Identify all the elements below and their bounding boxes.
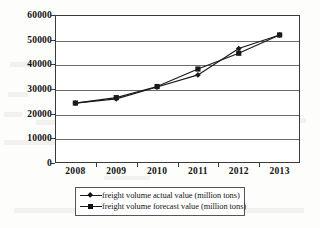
square-marker: [154, 84, 159, 89]
square-marker: [236, 51, 241, 56]
y-axis-tick-mark: [51, 64, 55, 65]
diamond-marker-icon: [80, 190, 102, 201]
chart-container: 0100002000030000400005000060000 20082009…: [0, 0, 320, 228]
diamond-marker: [236, 46, 242, 52]
x-axis-tick-label: 2012: [229, 166, 249, 176]
square-marker: [73, 100, 78, 105]
square-marker: [277, 32, 282, 37]
x-axis-tick-label: 2013: [269, 166, 289, 176]
y-axis-tick-mark: [51, 163, 55, 164]
chart-legend: freight volume actual value (million ton…: [75, 187, 245, 216]
y-axis-labels: 0100002000030000400005000060000: [0, 0, 52, 228]
legend-item-forecast: freight volume forecast value (million t…: [80, 201, 240, 212]
y-axis-tick-label: 10000: [2, 133, 52, 143]
legend-item-actual: freight volume actual value (million ton…: [80, 190, 240, 201]
square-marker: [195, 66, 200, 71]
y-axis-tick-label: 0: [2, 158, 52, 168]
x-axis-tick-mark: [96, 163, 97, 167]
y-axis-tick-label: 40000: [2, 59, 52, 69]
y-axis-tick-label: 50000: [2, 35, 52, 45]
series-line: [75, 35, 279, 103]
legend-label-actual: freight volume actual value (million ton…: [102, 190, 240, 201]
diamond-marker: [195, 72, 201, 78]
y-axis-tick-mark: [51, 89, 55, 90]
scan-artifact: [104, 176, 150, 180]
x-axis-tick-mark: [178, 163, 179, 167]
y-axis-tick-label: 30000: [2, 84, 52, 94]
square-marker-icon: [80, 201, 102, 212]
x-axis-tick-mark: [218, 163, 219, 167]
y-axis-tick-mark: [51, 114, 55, 115]
y-axis-tick-mark: [51, 15, 55, 16]
y-axis-tick-label: 60000: [2, 10, 52, 20]
square-marker: [114, 95, 119, 100]
y-axis-tick-mark: [51, 40, 55, 41]
x-axis-tick-label: 2011: [188, 166, 208, 176]
x-axis-tick-label: 2008: [65, 166, 85, 176]
y-axis-tick-label: 20000: [2, 109, 52, 119]
x-axis-tick-label: 2009: [106, 166, 126, 176]
x-axis-tick-mark: [259, 163, 260, 167]
x-axis-tick-mark: [137, 163, 138, 167]
legend-label-forecast: freight volume forecast value (million t…: [102, 201, 246, 212]
y-axis-tick-mark: [51, 138, 55, 139]
x-axis-tick-label: 2010: [147, 166, 167, 176]
data-series-layer: [55, 15, 300, 163]
